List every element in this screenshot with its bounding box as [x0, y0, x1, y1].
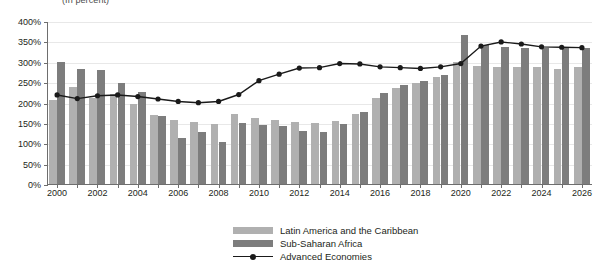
x-tick-label: 2008 [209, 189, 229, 198]
x-tick-mark [118, 184, 119, 188]
line-series-advanced-economies [47, 22, 592, 185]
x-tick-mark [239, 184, 240, 188]
y-tick-label: 400% [18, 18, 41, 27]
x-tick-label: 2002 [87, 189, 107, 198]
x-tick-mark [320, 184, 321, 188]
line-marker-advanced-economies [377, 64, 382, 69]
y-tick-label: 100% [18, 140, 41, 149]
legend-swatch-icon-sub-saharan-africa [233, 240, 273, 247]
line-marker-advanced-economies [579, 45, 584, 50]
y-tick-label: 350% [18, 38, 41, 47]
line-marker-advanced-economies [297, 65, 302, 70]
y-tick-label: 50% [23, 160, 41, 169]
line-marker-advanced-economies [135, 94, 140, 99]
line-marker-advanced-economies [54, 92, 59, 97]
x-tick-label: 2026 [572, 189, 592, 198]
line-marker-advanced-economies [115, 92, 120, 97]
x-tick-mark [481, 184, 482, 188]
y-tick-label: 250% [18, 79, 41, 88]
x-tick-label: 2006 [168, 189, 188, 198]
x-tick-label: 2020 [451, 189, 471, 198]
line-marker-advanced-economies [277, 72, 282, 77]
x-tick-label: 2018 [410, 189, 430, 198]
line-marker-advanced-economies [155, 96, 160, 101]
line-marker-advanced-economies [176, 99, 181, 104]
line-marker-advanced-economies [216, 99, 221, 104]
line-marker-advanced-economies [559, 45, 564, 50]
x-tick-label: 2016 [370, 189, 390, 198]
x-tick-label: 2022 [491, 189, 511, 198]
line-marker-advanced-economies [256, 78, 261, 83]
legend-label-sub-saharan-africa: Sub-Saharan Africa [280, 239, 362, 249]
legend-item-advanced-economies: Advanced Economies [233, 250, 493, 263]
x-tick-label: 2000 [47, 189, 67, 198]
x-tick-label: 2004 [128, 189, 148, 198]
legend-label-advanced-economies: Advanced Economies [280, 252, 372, 262]
line-marker-advanced-economies [317, 65, 322, 70]
legend-label-latin-america: Latin America and the Caribbean [280, 226, 418, 236]
line-marker-advanced-economies [438, 64, 443, 69]
line-marker-advanced-economies [196, 100, 201, 105]
x-tick-label: 2024 [532, 189, 552, 198]
chart-legend: Latin America and the Caribbean Sub-Saha… [233, 224, 493, 263]
legend-item-sub-saharan-africa: Sub-Saharan Africa [233, 237, 493, 250]
x-tick-label: 2010 [249, 189, 269, 198]
line-marker-advanced-economies [539, 44, 544, 49]
line-marker-advanced-economies [337, 61, 342, 66]
line-path-advanced-economies [57, 42, 582, 103]
legend-item-latin-america: Latin America and the Caribbean [233, 224, 493, 237]
line-marker-advanced-economies [95, 93, 100, 98]
line-marker-advanced-economies [478, 43, 483, 48]
legend-swatch-icon-latin-america [233, 227, 273, 234]
x-tick-mark [562, 184, 563, 188]
y-tick-label: 150% [18, 119, 41, 128]
line-marker-advanced-economies [398, 65, 403, 70]
x-tick-mark [198, 184, 199, 188]
line-marker-advanced-economies [75, 96, 80, 101]
y-tick-label: 300% [18, 58, 41, 67]
x-tick-mark [360, 184, 361, 188]
line-marker-advanced-economies [458, 61, 463, 66]
debt-chart: (In percent) 0%50%100%150%200%250%300%35… [0, 0, 606, 265]
y-tick-mark [44, 185, 48, 186]
plot-area: 0%50%100%150%200%250%300%350%400% 200020… [47, 22, 592, 185]
x-tick-mark [77, 184, 78, 188]
chart-subtitle: (In percent) [62, 0, 109, 5]
line-marker-advanced-economies [499, 39, 504, 44]
line-marker-advanced-economies [418, 66, 423, 71]
y-tick-label: 200% [18, 99, 41, 108]
x-tick-mark [279, 184, 280, 188]
line-marker-advanced-economies [519, 41, 524, 46]
x-tick-label: 2012 [289, 189, 309, 198]
line-marker-advanced-economies [236, 92, 241, 97]
y-tick-label: 0% [28, 181, 41, 190]
x-tick-mark [158, 184, 159, 188]
x-tick-label: 2014 [330, 189, 350, 198]
x-tick-mark [400, 184, 401, 188]
x-tick-mark [441, 184, 442, 188]
x-tick-mark [521, 184, 522, 188]
line-marker-advanced-economies [357, 61, 362, 66]
legend-line-marker-icon-advanced-economies [233, 253, 273, 260]
